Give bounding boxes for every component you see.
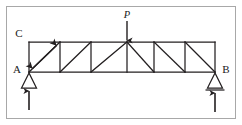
truss-figure: C A B P xyxy=(0,0,242,125)
label-joint-C: C xyxy=(15,27,22,39)
label-support-A: A xyxy=(13,63,21,75)
label-load-P: P xyxy=(123,9,131,20)
label-support-B: B xyxy=(222,63,229,75)
truss-diagram-canvas: C A B P xyxy=(0,0,242,125)
figure-border xyxy=(7,7,236,119)
